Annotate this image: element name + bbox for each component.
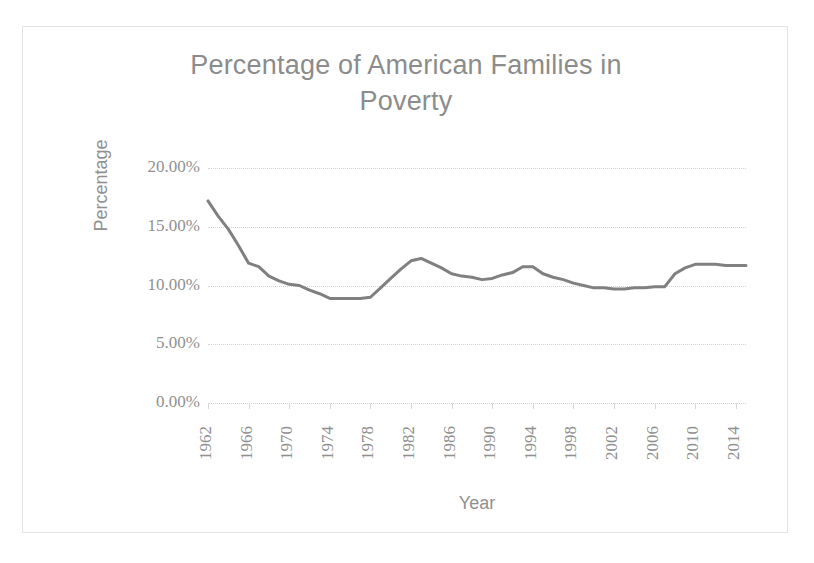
y-axis-tick-labels: 20.00%15.00%10.00%5.00%0.00%: [105, 168, 200, 403]
x-tick-label: 2010: [683, 382, 703, 460]
x-axis-tick-labels: 1962196619701974197819821986199019941998…: [208, 409, 746, 487]
x-tick-label: 1998: [561, 382, 581, 460]
series-line-poverty: [208, 201, 746, 299]
x-tick-label: 2002: [602, 382, 622, 460]
chart-title: Percentage of American Families in Pover…: [23, 47, 789, 119]
x-axis-title: Year: [208, 493, 746, 514]
x-tick-label: 1962: [196, 382, 216, 460]
plot-area: [208, 168, 746, 403]
x-tick-label: 1986: [440, 382, 460, 460]
y-tick-label: 0.00%: [110, 392, 200, 412]
y-tick-label: 15.00%: [110, 216, 200, 236]
chart-title-line-2: Poverty: [23, 83, 789, 119]
x-tick-label: 1970: [277, 382, 297, 460]
y-tick-label: 5.00%: [110, 333, 200, 353]
chart-container: Percentage of American Families in Pover…: [22, 26, 788, 533]
x-tick-label: 1994: [521, 382, 541, 460]
x-tick-label: 2014: [724, 382, 744, 460]
x-tick-label: 2006: [643, 382, 663, 460]
data-line-svg: [208, 168, 746, 403]
x-tick-label: 1978: [358, 382, 378, 460]
chart-title-line-1: Percentage of American Families in: [23, 47, 789, 83]
x-tick-label: 1982: [399, 382, 419, 460]
y-tick-label: 10.00%: [110, 275, 200, 295]
x-tick-label: 1990: [480, 382, 500, 460]
x-tick-label: 1966: [237, 382, 257, 460]
x-tick-label: 1974: [318, 382, 338, 460]
y-tick-label: 20.00%: [110, 157, 200, 177]
